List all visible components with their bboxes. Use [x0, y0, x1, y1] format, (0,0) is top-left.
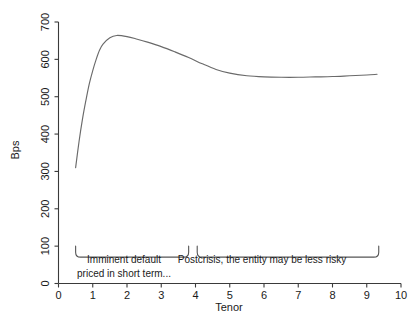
- x-tick-label-9: 9: [364, 289, 370, 301]
- y-tick-label-500: 500: [39, 88, 51, 106]
- spread-curve-line: [76, 35, 377, 167]
- x-axis-tick-labels: 012345678910: [55, 289, 407, 301]
- x-tick-label-5: 5: [227, 289, 233, 301]
- postcrisis-annotation-line1: Postcrisis, the entity may be less risky: [178, 254, 346, 265]
- x-tick-label-7: 7: [295, 289, 301, 301]
- short-term-annotation-line2: priced in short term...: [77, 268, 171, 279]
- y-tick-label-700: 700: [39, 13, 51, 31]
- y-axis-tick-labels: 0100200300400500600700: [39, 13, 51, 287]
- x-tick-label-2: 2: [124, 289, 130, 301]
- x-tick-label-4: 4: [192, 289, 198, 301]
- x-tick-label-8: 8: [329, 289, 335, 301]
- x-tick-label-1: 1: [90, 289, 96, 301]
- y-tick-label-0: 0: [39, 280, 51, 286]
- y-axis-title: Bps: [9, 140, 21, 159]
- y-axis-ticks: [55, 22, 59, 284]
- y-tick-label-600: 600: [39, 50, 51, 68]
- y-tick-label-200: 200: [39, 200, 51, 218]
- x-tick-label-3: 3: [158, 289, 164, 301]
- y-tick-label-100: 100: [39, 237, 51, 255]
- y-tick-label-400: 400: [39, 125, 51, 143]
- x-axis-title: Tenor: [215, 301, 243, 313]
- y-tick-label-300: 300: [39, 162, 51, 180]
- short-term-annotation-line1: Imminent default: [87, 254, 161, 265]
- cds-spread-line-chart: 0100200300400500600700 012345678910 Bps …: [0, 0, 420, 327]
- x-axis-ticks: [59, 284, 402, 288]
- x-tick-label-10: 10: [395, 289, 407, 301]
- chart-container: 0100200300400500600700 012345678910 Bps …: [0, 0, 420, 327]
- x-tick-label-6: 6: [261, 289, 267, 301]
- x-tick-label-0: 0: [55, 289, 61, 301]
